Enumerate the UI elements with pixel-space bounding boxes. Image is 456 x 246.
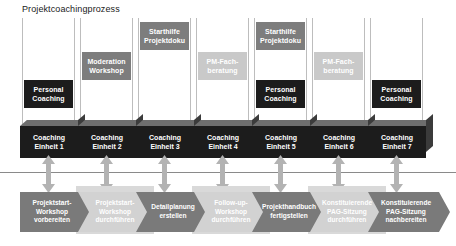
role-label-line1: Personal (382, 85, 412, 94)
role-label-line2: Coaching (264, 94, 296, 103)
unit-label-line2: Einheit 3 (150, 142, 179, 151)
step-label: Follow-up- Workshop durchführen (212, 199, 251, 225)
step-label-line3: vorbereiten (33, 216, 72, 225)
coaching-unit-box-3[interactable]: Coaching Einheit 3 (136, 120, 201, 158)
unit-label-line1: Coaching (265, 133, 297, 142)
box-front-face: Coaching Einheit 4 (194, 126, 252, 158)
role-box-personal-coaching-1[interactable]: Personal Coaching (24, 80, 73, 108)
diagram-canvas: Projektcoachingprozess Personal Coaching… (0, 0, 456, 246)
role-box-personal-coaching-5[interactable]: Personal Coaching (256, 80, 305, 108)
box-front-face: Coaching Einheit 2 (78, 126, 136, 158)
step-label-line3: durchführen (322, 216, 372, 225)
step-label-line2: erstellen (151, 212, 195, 221)
swimlane-column-7 (370, 18, 423, 128)
step-label-line1: Projektstart- (33, 199, 72, 208)
unit-label-line1: Coaching (91, 133, 123, 142)
role-box-starthilfe-projektdoku-3[interactable]: Starthilfe Projektdoku (140, 22, 189, 50)
role-label-line1: Personal (34, 85, 64, 94)
step-label: Konstituierende PAG-Sitzung nachbereiten (381, 199, 431, 225)
step-label-line3: durchführen (212, 216, 251, 225)
coaching-unit-box-6[interactable]: Coaching Einheit 6 (310, 120, 375, 158)
box-front-face: Coaching Einheit 6 (310, 126, 368, 158)
double-arrow-icon-3 (157, 155, 172, 193)
box-front-face: Coaching Einheit 7 (368, 126, 426, 158)
unit-label-line1: Coaching (149, 133, 181, 142)
role-label-line2: beratung (207, 66, 237, 75)
coaching-unit-box-5[interactable]: Coaching Einheit 5 (252, 120, 317, 158)
step-label-line1: Projektstart- (96, 199, 135, 208)
double-arrow-icon-1 (41, 155, 56, 193)
role-label-line2: Workshop (89, 66, 124, 75)
step-label-line1: Projekthandbuch (262, 203, 316, 212)
step-label-line2: PAG-Sitzung (381, 208, 431, 217)
step-label: Konstituierende PAG-Sitzung durchführen (322, 199, 372, 225)
step-label-line3: nachbereiten (381, 216, 431, 225)
step-label: Projektstart- Workshop durchführen (96, 199, 135, 225)
double-arrow-icon-7 (389, 155, 404, 193)
role-label-line2: Projektdoku (144, 36, 185, 45)
step-label: Projekthandbuch fertigstellen (262, 203, 316, 220)
step-label-line1: Konstituierende (381, 199, 431, 208)
unit-label-line1: Coaching (323, 133, 355, 142)
step-label-line2: PAG-Sitzung (322, 208, 372, 217)
role-label-line1: Personal (266, 85, 296, 94)
box-front-face: Coaching Einheit 1 (20, 126, 78, 158)
role-box-personal-coaching-7[interactable]: Personal Coaching (372, 80, 421, 108)
coaching-unit-box-7[interactable]: Coaching Einheit 7 (368, 120, 433, 158)
role-box-starthilfe-projektdoku-5[interactable]: Starthilfe Projektdoku (256, 22, 305, 50)
role-label-line1: Starthilfe (149, 27, 180, 36)
process-step-7[interactable]: Konstituierende PAG-Sitzung nachbereiten (368, 192, 450, 232)
role-label-line1: PM-Fach- (207, 57, 239, 66)
unit-label-line2: Einheit 7 (382, 142, 411, 151)
step-label-line2: fertigstellen (262, 212, 316, 221)
step-label-line3: durchführen (96, 216, 135, 225)
page-title: Projektcoachingprozess (22, 4, 120, 14)
role-label-line2: beratung (323, 66, 353, 75)
step-label-line1: Detailplanung (151, 203, 195, 212)
coaching-unit-box-1[interactable]: Coaching Einheit 1 (20, 120, 85, 158)
box-front-face: Coaching Einheit 5 (252, 126, 310, 158)
unit-label-line2: Einheit 6 (324, 142, 353, 151)
unit-label-line1: Coaching (381, 133, 413, 142)
role-label-line1: Starthilfe (265, 27, 296, 36)
coaching-unit-box-2[interactable]: Coaching Einheit 2 (78, 120, 143, 158)
unit-label-line2: Einheit 5 (266, 142, 295, 151)
role-label-line1: PM-Fach- (323, 57, 355, 66)
unit-label-line2: Einheit 2 (92, 142, 121, 151)
role-box-pm-fachberatung-4[interactable]: PM-Fach- beratung (198, 52, 247, 80)
process-step-1[interactable]: Projektstart- Workshop vorbereiten (20, 192, 92, 232)
unit-label-line1: Coaching (33, 133, 65, 142)
role-label-line2: Coaching (32, 94, 64, 103)
box-side-face (426, 114, 433, 152)
role-box-pm-fachberatung-6[interactable]: PM-Fach- beratung (314, 52, 363, 80)
role-label-line1: Moderation (87, 57, 125, 66)
step-label: Projektstart- Workshop vorbereiten (33, 199, 72, 225)
unit-label-line2: Einheit 1 (34, 142, 63, 151)
box-front-face: Coaching Einheit 3 (136, 126, 194, 158)
step-label-line2: Workshop (33, 208, 72, 217)
step-label-line2: Workshop (96, 208, 135, 217)
step-label-line2: Workshop (212, 208, 251, 217)
role-label-line2: Coaching (380, 94, 412, 103)
step-label-line1: Follow-up- (212, 199, 251, 208)
swimlane-column-1 (22, 18, 75, 128)
unit-label-line2: Einheit 4 (208, 142, 237, 151)
double-arrow-icon-5 (273, 155, 288, 193)
role-label-line2: Projektdoku (260, 36, 301, 45)
unit-label-line1: Coaching (207, 133, 239, 142)
step-label-line1: Konstituierende (322, 199, 372, 208)
role-box-moderation-workshop-2[interactable]: Moderation Workshop (82, 52, 131, 80)
coaching-unit-box-4[interactable]: Coaching Einheit 4 (194, 120, 259, 158)
step-label: Detailplanung erstellen (151, 203, 195, 220)
